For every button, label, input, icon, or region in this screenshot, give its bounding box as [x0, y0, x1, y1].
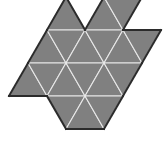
polyhedron-net-diagram: [0, 0, 166, 144]
net-figure-canvas: [0, 0, 166, 144]
